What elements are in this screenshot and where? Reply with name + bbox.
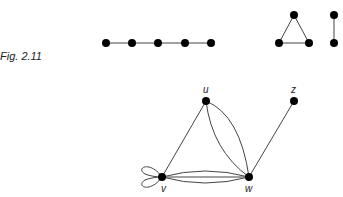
graph-figure: u z v w	[0, 0, 343, 197]
edge-v-w-2	[162, 171, 249, 177]
edge-u-w-1	[206, 101, 249, 177]
edge-u-v	[162, 101, 206, 177]
vertex-z	[290, 97, 298, 105]
vertices	[102, 11, 338, 181]
vertex-u	[202, 97, 210, 105]
label-v: v	[161, 183, 167, 194]
edge-u-w-2	[206, 101, 249, 177]
label-z: z	[290, 84, 296, 95]
vertex-v	[158, 173, 166, 181]
vertex-w	[245, 173, 253, 181]
edge-w-z	[249, 101, 294, 177]
edges	[106, 15, 334, 187]
label-u: u	[203, 84, 209, 95]
label-w: w	[245, 183, 253, 194]
edge-v-w-3	[162, 177, 249, 183]
